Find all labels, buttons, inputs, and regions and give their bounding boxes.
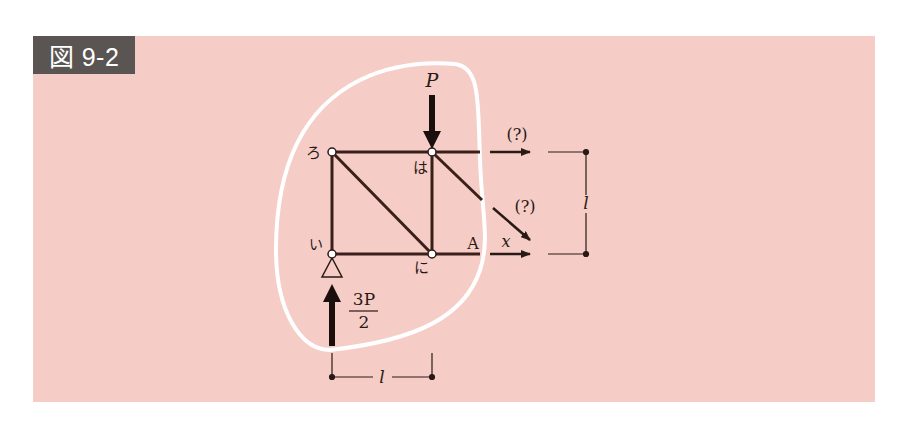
reaction-arrow	[323, 284, 341, 346]
applied-load-arrow	[423, 95, 441, 149]
horizontal-dimension-label: l	[379, 367, 384, 387]
node-label-ha: は	[413, 159, 428, 177]
section-cut-curve	[276, 63, 485, 350]
node-ro	[328, 148, 336, 156]
unknown-top-chord-label: (?)	[506, 125, 527, 144]
node-ni	[428, 250, 436, 258]
reaction-numerator: 3P	[353, 289, 375, 309]
node-label-i: い	[309, 236, 323, 252]
node-ha	[428, 148, 436, 156]
pin-support-icon	[322, 258, 342, 277]
unknown-bottom-chord-label: x	[501, 232, 510, 251]
node-label-ro: ろ	[306, 144, 321, 162]
truss-members	[332, 152, 482, 254]
unknown-diagonal-label: (?)	[514, 197, 535, 216]
point-label-A: A	[466, 234, 479, 253]
vertical-dimension-label: l	[583, 193, 588, 213]
reaction-denominator: 2	[359, 312, 370, 332]
node-i	[328, 250, 336, 258]
truss-diagram: P ろ は い に A (?) (?) x l l 3P 2	[0, 0, 908, 422]
load-label-P: P	[425, 69, 440, 91]
node-label-ni: に	[414, 259, 429, 277]
